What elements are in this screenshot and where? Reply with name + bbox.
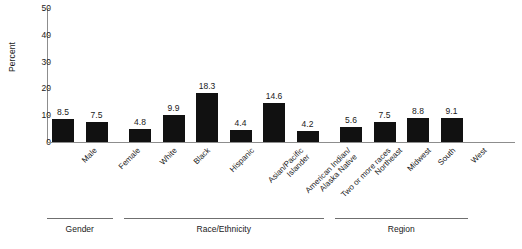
x-axis-category-label: Midwest: [405, 146, 432, 173]
x-axis-category-label-line: Male: [80, 146, 99, 165]
bar: [297, 131, 319, 142]
group-label: Gender: [47, 224, 113, 234]
x-axis-category-label: Black: [191, 146, 211, 166]
bar-value-label: 14.6: [257, 92, 291, 101]
bar: [230, 130, 252, 142]
bar-chart: Percent 01020304050 8.57.54.89.918.34.41…: [0, 0, 522, 249]
y-axis-title: Percent: [7, 27, 17, 87]
group-bracket-line: [47, 218, 113, 219]
x-axis-category-label-line: West: [469, 146, 488, 165]
x-axis-line: [47, 142, 515, 143]
bar-value-label: 4.4: [224, 119, 258, 128]
x-axis-category-label: West: [469, 146, 488, 165]
x-axis-category-label: Asian/PacificIslander: [266, 146, 311, 191]
bar-value-label: 4.2: [291, 120, 325, 129]
bar: [129, 129, 151, 142]
group-label: Race/Ethnicity: [124, 224, 324, 234]
x-axis-category-label: Male: [80, 146, 99, 165]
y-axis-tick-mark: [47, 142, 51, 143]
x-axis-category-label-line: White: [158, 146, 179, 167]
bar: [86, 122, 108, 142]
bar-column: [441, 8, 463, 142]
bar-value-label: 5.6: [334, 116, 368, 125]
x-axis-category-label-line: South: [436, 146, 457, 167]
bar-value-label: 7.5: [368, 111, 402, 120]
bar: [163, 115, 185, 142]
x-axis-category-label-line: Hispanic: [228, 146, 256, 174]
bar-value-label: 4.8: [123, 118, 157, 127]
y-axis-tick-mark: [47, 35, 51, 36]
bar: [263, 103, 285, 142]
bar: [407, 118, 429, 142]
group-bracket-line: [335, 218, 468, 219]
y-axis-tick-mark: [47, 88, 51, 89]
bar: [52, 119, 74, 142]
bar-column: [196, 8, 218, 142]
bar-value-label: 9.9: [157, 104, 191, 113]
x-axis-category-label: Hispanic: [228, 146, 256, 174]
x-axis-category-label-line: Black: [191, 146, 211, 166]
bar-value-label: 9.1: [435, 107, 469, 116]
y-axis-line: [47, 8, 48, 143]
x-axis-category-label: South: [436, 146, 457, 167]
y-axis-tick-mark: [47, 62, 51, 63]
bar: [340, 127, 362, 142]
y-axis-tick-mark: [47, 8, 51, 9]
x-axis-category-label: Female: [116, 146, 141, 171]
bar-column: [163, 8, 185, 142]
bar-value-label: 18.3: [190, 82, 224, 91]
bar: [374, 122, 396, 142]
x-axis-category-label: White: [158, 146, 179, 167]
bar-column: [407, 8, 429, 142]
bar-column: [86, 8, 108, 142]
bar-column: [374, 8, 396, 142]
group-bracket-line: [124, 218, 324, 219]
bar: [441, 118, 463, 142]
bar-value-label: 7.5: [80, 111, 114, 120]
bar-column: [263, 8, 285, 142]
x-axis-category-label-line: Midwest: [405, 146, 432, 173]
group-label: Region: [335, 224, 468, 234]
bar: [196, 93, 218, 142]
bar-value-label: 8.5: [46, 108, 80, 117]
bar-value-label: 8.8: [401, 107, 435, 116]
x-axis-category-label-line: Female: [116, 146, 141, 171]
bar-column: [52, 8, 74, 142]
